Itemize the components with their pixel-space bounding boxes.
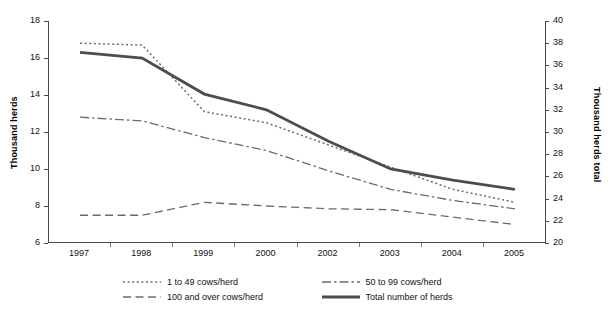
- series-line: [80, 52, 515, 189]
- series-line: [80, 117, 515, 209]
- legend-item[interactable]: Total number of herds: [321, 292, 495, 302]
- x-tick-mark: [359, 243, 360, 247]
- y-tick-label-right: 24: [553, 194, 579, 203]
- legend-label: Total number of herds: [366, 292, 453, 302]
- legend-swatch: [321, 292, 361, 302]
- y-axis-label-right: Thousand herds total: [589, 72, 605, 197]
- y-tick-label-right: 32: [553, 105, 579, 114]
- x-tick-label: 2005: [484, 248, 544, 258]
- legend-label: 1 to 49 cows/herd: [167, 277, 238, 287]
- y-tick-label-left: 14: [14, 90, 40, 99]
- y-tick-label-left: 18: [14, 16, 40, 25]
- y-tick-label-left: 6: [14, 238, 40, 247]
- legend-item[interactable]: 50 to 99 cows/herd: [321, 277, 495, 287]
- x-tick-mark: [234, 243, 235, 247]
- y-tick-label-left: 12: [14, 127, 40, 136]
- plot-area: [48, 21, 545, 243]
- chart-legend: 1 to 49 cows/herd50 to 99 cows/herd100 a…: [122, 277, 494, 302]
- x-tick-mark: [297, 243, 298, 247]
- x-tick-mark: [483, 243, 484, 247]
- x-tick-label: 2000: [235, 248, 295, 258]
- legend-item[interactable]: 1 to 49 cows/herd: [122, 277, 305, 287]
- x-tick-label: 1997: [49, 248, 109, 258]
- y-tick-label-right: 34: [553, 83, 579, 92]
- y-tick-label-right: 20: [553, 238, 579, 247]
- x-tick-mark: [110, 243, 111, 247]
- series-lines: [49, 21, 546, 243]
- x-tick-label: 2003: [360, 248, 420, 258]
- y-tick-label-right: 28: [553, 149, 579, 158]
- y-tick-label-right: 26: [553, 171, 579, 180]
- y-tick-label-left: 16: [14, 53, 40, 62]
- legend-label: 50 to 99 cows/herd: [366, 277, 442, 287]
- series-line: [80, 202, 515, 224]
- y-tick-mark-right: [545, 243, 549, 244]
- x-tick-label: 2002: [298, 248, 358, 258]
- legend-item[interactable]: 100 and over cows/herd: [122, 292, 305, 302]
- y-tick-label-left: 8: [14, 201, 40, 210]
- y-tick-mark-left: [44, 243, 48, 244]
- x-tick-label: 2004: [422, 248, 482, 258]
- y-tick-label-left: 10: [14, 164, 40, 173]
- legend-label: 100 and over cows/herd: [167, 292, 263, 302]
- legend-swatch: [122, 277, 162, 287]
- chart-figure: Thousand herds Thousand herds total 6810…: [0, 0, 611, 310]
- legend-swatch: [122, 292, 162, 302]
- y-tick-label-right: 22: [553, 216, 579, 225]
- y-tick-label-right: 36: [553, 60, 579, 69]
- y-tick-label-right: 38: [553, 38, 579, 47]
- y-tick-label-right: 30: [553, 127, 579, 136]
- y-tick-label-right: 40: [553, 16, 579, 25]
- x-tick-mark: [421, 243, 422, 247]
- x-tick-mark: [172, 243, 173, 247]
- x-tick-label: 1999: [173, 248, 233, 258]
- x-tick-label: 1998: [111, 248, 171, 258]
- legend-swatch: [321, 277, 361, 287]
